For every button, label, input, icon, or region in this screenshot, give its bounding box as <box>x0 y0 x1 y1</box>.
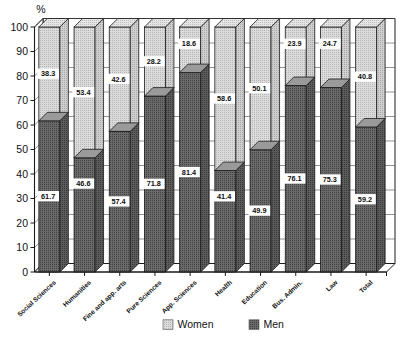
y-tick-label: 80 <box>16 70 28 82</box>
value-label-women: 24.7 <box>323 39 337 48</box>
x-tick-label: Health <box>214 279 234 298</box>
bar-side-women <box>95 19 104 158</box>
x-tick-label: Education <box>240 279 268 306</box>
bar-side-men <box>60 112 69 272</box>
legend-label-men: Men <box>264 318 285 330</box>
x-tick-label: Law <box>324 278 339 292</box>
value-label-women: 28.2 <box>147 57 161 66</box>
bar-side-women <box>341 19 350 88</box>
bar-side-men <box>201 64 210 272</box>
x-tick-label: Humanities <box>61 278 92 308</box>
bar-segment-men <box>215 171 236 272</box>
bar-side-men <box>271 141 280 272</box>
value-label-men: 59.2 <box>358 195 372 204</box>
chart-canvas: 0102030405060708090100 Social SciencesHu… <box>0 0 413 340</box>
value-label-women: 38.3 <box>41 69 55 78</box>
value-label-men: 49.9 <box>252 206 266 215</box>
bar-side-women <box>130 19 139 132</box>
bar-group <box>39 19 69 273</box>
bar-side-women <box>271 19 280 150</box>
y-tick-label: 0 <box>22 266 28 278</box>
bar-group <box>356 19 386 273</box>
bar-group <box>285 19 315 273</box>
value-label-men: 46.6 <box>76 179 90 188</box>
value-label-men: 76.1 <box>287 174 301 183</box>
bar-segment-men <box>74 158 95 272</box>
bar-side-men <box>165 88 174 272</box>
y-tick-label: 30 <box>16 192 28 204</box>
bar-side-women <box>306 19 315 86</box>
y-tick-label: 100 <box>10 21 28 33</box>
value-label-men: 57.4 <box>111 197 126 206</box>
x-tick-label: App. Sciences <box>160 278 199 315</box>
value-label-men: 61.7 <box>41 192 55 201</box>
y-tick-label: 10 <box>16 241 28 253</box>
bar-side-women <box>60 19 69 121</box>
y-tick-label: 90 <box>16 45 28 57</box>
bar-side-women <box>165 19 174 97</box>
value-label-women: 42.6 <box>111 75 125 84</box>
value-label-women: 23.9 <box>287 39 301 48</box>
y-axis-unit: % <box>36 3 45 15</box>
bar-side-women <box>377 19 386 127</box>
y-tick-label: 60 <box>16 119 28 131</box>
legend-swatch-men <box>249 320 259 330</box>
value-label-women: 40.8 <box>358 72 372 81</box>
bar-side-men <box>341 79 350 272</box>
bar-group <box>180 19 210 273</box>
x-tick-label: Total <box>358 279 374 295</box>
y-tick-label: 50 <box>16 143 28 155</box>
bar-group <box>215 19 245 273</box>
bar-group <box>250 19 279 273</box>
bar-group <box>74 19 104 273</box>
x-tick-label: Pure Sciences <box>125 278 163 314</box>
bar-group <box>109 19 139 273</box>
value-label-men: 41.4 <box>217 192 232 201</box>
x-tick-label: Bus. Admin. <box>271 279 304 310</box>
value-label-women: 58.6 <box>217 94 231 103</box>
value-label-men: 75.3 <box>323 175 337 184</box>
bar-segment-women <box>320 27 341 88</box>
bar-side-men <box>95 149 104 272</box>
legend-label-women: Women <box>178 318 214 330</box>
bar-side-men <box>130 123 139 272</box>
bar-side-men <box>306 77 315 272</box>
value-label-women: 53.4 <box>76 88 91 97</box>
y-tick-label: 40 <box>16 168 28 180</box>
legend-swatch-women <box>163 320 173 330</box>
value-label-women: 18.6 <box>182 39 196 48</box>
stacked-bar-chart: 0102030405060708090100 Social SciencesHu… <box>0 0 413 340</box>
bar-side-men <box>236 162 245 272</box>
x-tick-label: Social Sciences <box>16 278 57 317</box>
value-label-men: 71.8 <box>147 179 161 188</box>
y-tick-label: 70 <box>16 94 28 106</box>
value-label-men: 81.4 <box>182 168 197 177</box>
x-axis: Social SciencesHumanitiesFine and app. a… <box>16 272 387 323</box>
bar-side-women <box>236 19 245 171</box>
chart-legend: WomenMen <box>163 318 284 330</box>
bar-group <box>320 19 350 273</box>
bar-side-men <box>377 118 386 272</box>
value-label-women: 50.1 <box>252 84 266 93</box>
y-tick-label: 20 <box>16 217 28 229</box>
